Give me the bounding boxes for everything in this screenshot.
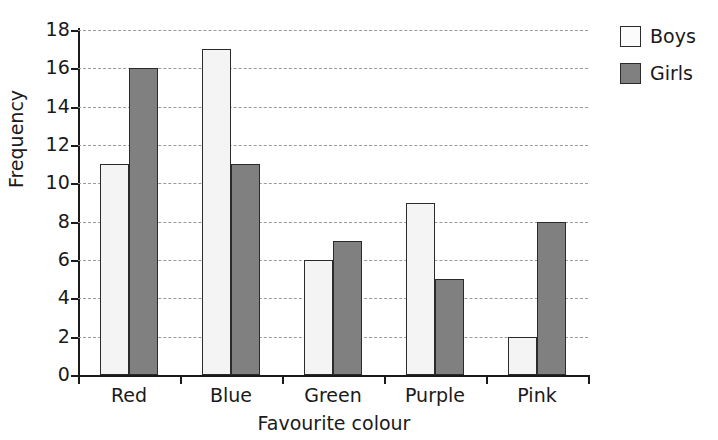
bar-chart: Frequency 024681012141618 RedBlueGreenPu… bbox=[0, 0, 718, 440]
y-axis-tick bbox=[71, 337, 78, 339]
x-axis-label-red: Red bbox=[78, 384, 180, 406]
bar-red-girls bbox=[129, 68, 158, 375]
y-axis-tick bbox=[71, 222, 78, 224]
y-axis-tick-label: 14 bbox=[36, 97, 70, 116]
x-axis-tick bbox=[78, 375, 80, 384]
x-axis-label-purple: Purple bbox=[384, 384, 486, 406]
x-axis-tick bbox=[486, 375, 488, 384]
x-axis-tick bbox=[588, 375, 590, 384]
legend-swatch-boys bbox=[620, 26, 641, 47]
x-axis-tick bbox=[384, 375, 386, 384]
x-axis-tick bbox=[180, 375, 182, 384]
y-axis-tick-label: 6 bbox=[36, 250, 70, 269]
y-axis-tick-labels: 024681012141618 bbox=[28, 30, 70, 375]
bar-green-girls bbox=[333, 241, 362, 375]
y-axis-tick-label: 18 bbox=[36, 20, 70, 39]
x-axis-title: Favourite colour bbox=[78, 412, 590, 434]
bar-red-boys bbox=[100, 164, 129, 375]
plot-area bbox=[78, 30, 588, 375]
x-axis-tick bbox=[282, 375, 284, 384]
y-axis-tick-label: 4 bbox=[36, 288, 70, 307]
legend-item-girls: Girls bbox=[620, 63, 718, 84]
x-axis-label-pink: Pink bbox=[486, 384, 588, 406]
bar-blue-boys bbox=[202, 49, 231, 375]
y-axis-tick bbox=[71, 183, 78, 185]
legend-item-boys: Boys bbox=[620, 26, 718, 47]
y-axis-tick-label: 10 bbox=[36, 173, 70, 192]
y-axis-tick-label: 8 bbox=[36, 212, 70, 231]
gridline bbox=[78, 30, 588, 31]
y-axis-tick bbox=[71, 30, 78, 32]
y-axis-tick bbox=[71, 107, 78, 109]
bar-blue-girls bbox=[231, 164, 260, 375]
bar-purple-boys bbox=[406, 203, 435, 376]
bar-green-boys bbox=[304, 260, 333, 375]
y-axis-tick bbox=[71, 375, 78, 377]
y-axis-title: Frequency bbox=[5, 39, 27, 239]
legend-swatch-girls bbox=[620, 63, 641, 84]
bar-pink-boys bbox=[508, 337, 537, 375]
y-axis-tick bbox=[71, 145, 78, 147]
y-axis-tick-label: 0 bbox=[36, 365, 70, 384]
bar-pink-girls bbox=[537, 222, 566, 375]
legend-label-girls: Girls bbox=[650, 63, 693, 84]
y-axis-tick bbox=[71, 260, 78, 262]
y-axis-tick-label: 2 bbox=[36, 327, 70, 346]
y-axis-tick-label: 12 bbox=[36, 135, 70, 154]
y-axis-tick bbox=[71, 68, 78, 70]
x-axis-line bbox=[78, 375, 590, 377]
legend: BoysGirls bbox=[620, 26, 718, 100]
y-axis-tick bbox=[71, 298, 78, 300]
legend-label-boys: Boys bbox=[650, 26, 696, 47]
x-axis-label-green: Green bbox=[282, 384, 384, 406]
bar-purple-girls bbox=[435, 279, 464, 375]
x-axis-label-blue: Blue bbox=[180, 384, 282, 406]
y-axis-tick-label: 16 bbox=[36, 58, 70, 77]
